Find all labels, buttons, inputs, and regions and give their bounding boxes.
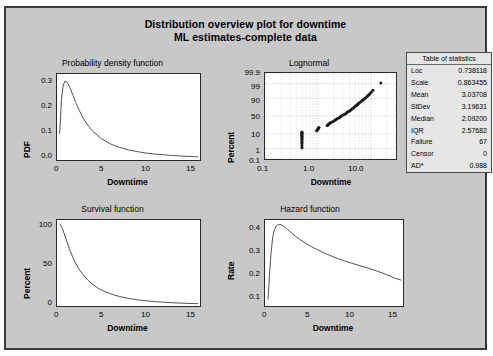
- panel-hazard-curve: [265, 220, 403, 306]
- panel-lognormal-ytick-5: 99: [226, 82, 260, 91]
- panel-lognormal-ytick-2: 10: [226, 130, 260, 139]
- stats-row-value: 2.09200: [462, 114, 487, 124]
- panel-survival-plotarea: [56, 219, 201, 307]
- stats-row-label: StDev: [411, 102, 430, 112]
- stats-row: Failure67: [407, 136, 491, 148]
- stats-row-label: Censor: [411, 149, 434, 159]
- panel-pdf: Probability density function PDF 0.3 0.2…: [20, 58, 205, 193]
- panel-pdf-xtick-2: 10: [141, 164, 150, 173]
- panel-lognormal-xtick-1: 1.0: [303, 164, 314, 173]
- stats-row: Loc0.738118: [407, 65, 491, 77]
- panel-hazard-xtick-1: 5: [305, 310, 309, 319]
- panel-lognormal: Lognormal Percent 99.9 99 90 50 10 1 0.1…: [224, 58, 404, 198]
- stats-row: Scale0.863455: [407, 77, 491, 89]
- panel-survival-xlabel: Downtime: [40, 323, 215, 333]
- panel-pdf-plotarea: [56, 73, 201, 161]
- panel-hazard-xtick-0: 0: [262, 310, 266, 319]
- stats-row-value: 67: [479, 137, 487, 147]
- panel-lognormal-xtick-0: 0.1: [257, 164, 268, 173]
- stats-row-label: Loc: [411, 66, 422, 76]
- stats-row-label: Mean: [411, 90, 429, 100]
- stats-table-body: Loc0.738118Scale0.863455Mean3.03708StDev…: [407, 65, 491, 172]
- panel-survival-xtick-1: 5: [99, 310, 103, 319]
- panel-lognormal-ytick-6: 99.9: [226, 68, 260, 77]
- panel-pdf-curve: [57, 74, 200, 160]
- stats-row-value: 3.03708: [462, 90, 487, 100]
- panel-survival: Survival function Percent 100 50 0 0 5 1…: [20, 204, 205, 344]
- panel-hazard-xlabel: Downtime: [248, 323, 418, 333]
- panel-hazard: Hazard function Rate 0.4 0.3 0.2 0.1 0 5…: [224, 204, 409, 344]
- panel-lognormal-plotarea: [264, 72, 397, 160]
- title-line-2: ML estimates-complete data: [6, 31, 485, 44]
- panel-pdf-ytick-1: 0.2: [26, 101, 52, 110]
- panel-hazard-ytick-2: 0.3: [232, 246, 260, 255]
- stats-row-label: Scale: [411, 78, 429, 88]
- stats-row-label: Failure: [411, 137, 432, 147]
- panel-hazard-xtick-2: 10: [345, 310, 354, 319]
- panel-survival-ytick-2: 100: [24, 220, 52, 229]
- stats-row-label: IQR: [411, 126, 423, 136]
- panel-hazard-title: Hazard function: [230, 204, 390, 214]
- panel-survival-ytick-0: 0: [24, 298, 52, 307]
- panel-lognormal-ytick-3: 50: [226, 112, 260, 121]
- panel-lognormal-xlabel: Downtime: [246, 177, 416, 187]
- panel-hazard-plotarea: [264, 219, 404, 307]
- stats-row-value: 0: [483, 149, 487, 159]
- stats-row-value: 0.863455: [458, 78, 487, 88]
- panel-survival-curve: [57, 220, 200, 306]
- panel-survival-xtick-2: 10: [141, 310, 150, 319]
- stats-row-value: 2.57682: [462, 126, 487, 136]
- panel-hazard-xtick-3: 15: [388, 310, 397, 319]
- stats-table: Table of statistics Loc0.738118Scale0.86…: [406, 52, 492, 173]
- stats-row: AD*0.988: [407, 160, 491, 172]
- panel-hazard-ytick-3: 0.4: [232, 223, 260, 232]
- panel-pdf-ytick-0: 0.3: [26, 76, 52, 85]
- panel-pdf-ytick-2: 0.1: [26, 126, 52, 135]
- stats-table-header: Table of statistics: [407, 53, 491, 65]
- panel-pdf-xlabel: Downtime: [40, 177, 215, 187]
- panel-pdf-title: Probability density function: [20, 58, 205, 68]
- panel-hazard-ytick-0: 0.1: [232, 292, 260, 301]
- stats-row-value: 0.738118: [458, 66, 487, 76]
- panel-survival-xtick-3: 15: [186, 310, 195, 319]
- stats-row-label: AD*: [411, 161, 423, 171]
- panel-survival-title: Survival function: [20, 204, 205, 214]
- stats-row-label: Median: [411, 114, 434, 124]
- stats-row: Median2.09200: [407, 113, 491, 125]
- panel-lognormal-ytick-4: 90: [226, 96, 260, 105]
- panel-pdf-ytick-3: 0.0: [26, 151, 52, 160]
- stats-row-value: 0.988: [469, 161, 487, 171]
- panel-hazard-ytick-1: 0.2: [232, 269, 260, 278]
- stats-row: IQR2.57682: [407, 124, 491, 136]
- panel-lognormal-ytick-0: 0.1: [226, 156, 260, 165]
- panel-lognormal-ytick-1: 1: [226, 146, 260, 155]
- panel-pdf-xtick-1: 5: [99, 164, 103, 173]
- plot-frame: Distribution overview plot for downtime …: [4, 6, 487, 350]
- stats-row: Censor0: [407, 148, 491, 160]
- stats-row: Mean3.03708: [407, 89, 491, 101]
- panel-lognormal-title: Lognormal: [234, 58, 384, 68]
- panel-survival-ylabel: Percent: [22, 268, 32, 299]
- stats-row: StDev3.19631: [407, 101, 491, 113]
- panel-pdf-xtick-0: 0: [54, 164, 58, 173]
- panel-pdf-xtick-3: 15: [186, 164, 195, 173]
- stats-row-value: 3.19631: [462, 102, 487, 112]
- panel-survival-xtick-0: 0: [54, 310, 58, 319]
- panel-lognormal-xtick-2: 10.0: [348, 164, 364, 173]
- panel-lognormal-scatter: [265, 73, 396, 159]
- page-title: Distribution overview plot for downtime …: [6, 18, 485, 43]
- title-line-1: Distribution overview plot for downtime: [6, 18, 485, 31]
- panel-survival-ytick-1: 50: [24, 259, 52, 268]
